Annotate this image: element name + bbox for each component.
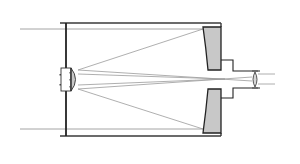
incoming-rays <box>20 29 203 129</box>
reflected-rays <box>78 29 252 129</box>
telescope-diagram <box>0 0 300 164</box>
exit-rays <box>258 74 275 84</box>
primary-mirror-top <box>203 27 221 70</box>
eyepiece-lens <box>252 71 258 88</box>
secondary-mirror <box>60 68 76 91</box>
telescope-tube <box>60 23 221 136</box>
primary-mirror-bottom <box>203 89 221 133</box>
